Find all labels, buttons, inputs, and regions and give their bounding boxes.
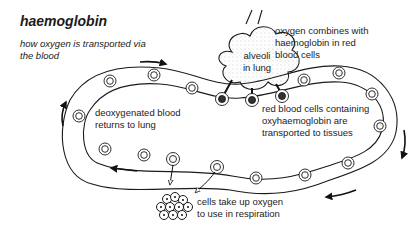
releasing-cell-icon xyxy=(211,161,224,174)
flow-arrow-icon xyxy=(326,190,356,197)
oxy-cell-icon xyxy=(250,172,262,184)
release-arrow-icon xyxy=(170,165,173,184)
label-alveoli: alveoli in lung xyxy=(238,50,276,74)
oxy-cell-icon xyxy=(333,67,345,79)
blood-cell-icon xyxy=(73,110,85,122)
oxygenated-cell-icon xyxy=(216,93,229,106)
releasing-cell-icon xyxy=(167,153,180,166)
flow-arrow-icon xyxy=(111,168,137,171)
oxygenated-cell-icon xyxy=(276,90,289,103)
oxygenated-cell-icon xyxy=(246,94,259,107)
oxy-cell-icon xyxy=(342,157,354,169)
label-red-cells: red blood cells containing oxyhaemoglobi… xyxy=(262,103,369,139)
blood-cell-icon xyxy=(148,69,160,81)
label-oxygen-combines: oxygen combines with haemoglobin in red … xyxy=(275,25,368,61)
blood-cell-icon xyxy=(104,75,116,87)
blood-cell-icon xyxy=(99,143,111,155)
oxy-cell-icon xyxy=(366,88,378,100)
oxy-cell-icon xyxy=(374,120,386,132)
flow-arrow-icon xyxy=(402,130,405,158)
label-tissue-cells: cells take up oxygen to use in respirati… xyxy=(197,196,283,220)
flow-arrow-icon xyxy=(140,62,166,64)
oxy-cell-icon xyxy=(299,169,311,181)
label-deoxygenated: deoxygenated blood returns to lung xyxy=(95,107,181,131)
oxy-cell-icon xyxy=(298,74,310,86)
blood-cell-icon xyxy=(138,149,150,161)
blood-cell-icon xyxy=(186,82,198,94)
